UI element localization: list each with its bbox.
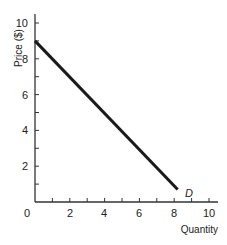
x-tick-label: 8 xyxy=(171,207,177,219)
y-tick-label: 4 xyxy=(22,124,28,136)
x-tick-label: 2 xyxy=(67,207,73,219)
x-tick-labels: 0 2 4 6 8 10 xyxy=(24,207,215,219)
demand-curve xyxy=(35,41,178,190)
demand-curve-label: D xyxy=(185,187,193,199)
y-tick-label: 2 xyxy=(22,160,28,172)
origin-label: 0 xyxy=(24,207,30,219)
y-tick-label: 10 xyxy=(16,17,28,29)
y-tick-label: 6 xyxy=(22,89,28,101)
axes xyxy=(35,14,218,202)
y-axis-title: Price ($) xyxy=(13,29,24,67)
x-axis-title: Quantity xyxy=(181,224,218,235)
demand-chart: 10 8 6 4 2 0 2 4 6 8 10 Price ($) Quanti… xyxy=(0,0,227,245)
x-tick-label: 10 xyxy=(203,207,215,219)
x-tick-label: 6 xyxy=(136,207,142,219)
x-tick-label: 4 xyxy=(101,207,107,219)
